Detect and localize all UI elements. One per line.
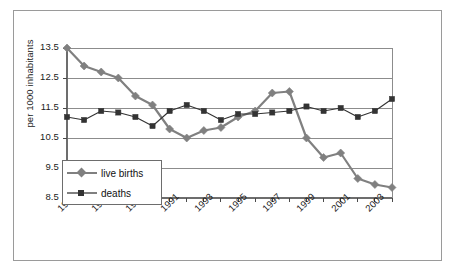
y-tick-label: 12.5 — [25, 71, 59, 82]
square-marker-icon — [67, 187, 97, 199]
y-tick-label: 9.5 — [25, 161, 59, 172]
legend-label-deaths: deaths — [101, 188, 131, 199]
legend-item-live-births: live births — [67, 163, 143, 183]
diamond-marker-icon — [67, 167, 97, 179]
y-tick-label: 13.5 — [25, 41, 59, 52]
y-tick-label: 10.5 — [25, 131, 59, 142]
y-tick-label: 11.5 — [25, 101, 59, 112]
chart-legend: live births deaths — [62, 160, 162, 205]
legend-item-deaths: deaths — [67, 183, 131, 203]
chart-canvas — [0, 0, 456, 272]
legend-label-live-births: live births — [101, 168, 143, 179]
chart-figure: per 1000 inhabitants 13.512.511.510.59.5… — [0, 0, 456, 272]
plot-wrapper: per 1000 inhabitants 13.512.511.510.59.5… — [0, 0, 456, 272]
y-tick-label: 8.5 — [25, 191, 59, 202]
